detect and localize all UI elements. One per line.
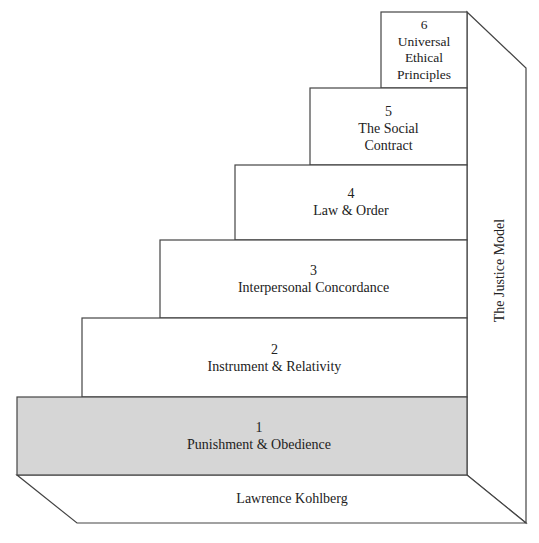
- stage-1-label: 1 Punishment & Obedience: [17, 419, 501, 453]
- stage-6-number: 6: [381, 17, 467, 34]
- stage-5-label: 5 The Social Contract: [310, 103, 467, 154]
- diagram-title: The Justice Model: [491, 196, 508, 346]
- stage-3-number: 3: [160, 262, 467, 279]
- stage-4-name: Law & Order: [235, 202, 467, 219]
- stage-5-number: 5: [310, 103, 467, 120]
- stage-3-label: 3 Interpersonal Concordance: [160, 262, 467, 296]
- stage-2-name: Instrument & Relativity: [82, 358, 467, 375]
- author-label: Lawrence Kohlberg: [77, 490, 507, 507]
- stage-4-label: 4 Law & Order: [235, 185, 467, 219]
- stage-2-label: 2 Instrument & Relativity: [82, 341, 467, 375]
- stage-1-number: 1: [17, 419, 501, 436]
- stage-1-name: Punishment & Obedience: [17, 436, 501, 453]
- stage-4-number: 4: [235, 185, 467, 202]
- stage-3-name: Interpersonal Concordance: [160, 279, 467, 296]
- stage-6-label: 6 Universal Ethical Principles: [381, 17, 467, 83]
- stage-2-number: 2: [82, 341, 467, 358]
- stage-6-name: Universal Ethical Principles: [381, 34, 467, 84]
- stage-5-name: The Social Contract: [310, 120, 467, 154]
